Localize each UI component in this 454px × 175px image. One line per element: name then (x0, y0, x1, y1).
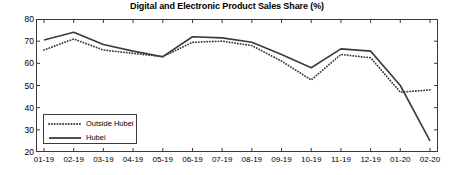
y-axis-tick-label: 70 (14, 36, 34, 46)
x-axis-tick-label: 12-19 (360, 155, 380, 164)
y-axis-tick-label: 40 (14, 103, 34, 113)
x-axis-tick-label: 01-19 (34, 155, 54, 164)
series-line-outside-hubei (44, 39, 430, 92)
x-axis-tick-label: 10-19 (301, 155, 321, 164)
x-axis-tick-label: 05-19 (153, 155, 173, 164)
y-axis-tick-label: 60 (14, 58, 34, 68)
y-axis-tick-label: 80 (14, 14, 34, 24)
legend-line-sample (48, 119, 82, 129)
chart-figure: Digital and Electronic Product Sales Sha… (0, 0, 454, 175)
chart-legend: Outside HubeiHubei (43, 114, 137, 144)
y-axis-tick-labels: 80706050403020 (10, 0, 34, 175)
y-axis-tick-label: 30 (14, 125, 34, 135)
legend-item-label: Hubei (86, 133, 106, 142)
legend-item-label: Outside Hubei (86, 119, 134, 128)
x-axis-tick-label: 09-19 (271, 155, 291, 164)
x-axis-tick-label: 11-19 (331, 155, 351, 164)
chart-title: Digital and Electronic Product Sales Sha… (0, 1, 454, 11)
x-axis-tick-label: 07-19 (212, 155, 232, 164)
x-axis-tick-labels: 01-1902-1903-1904-1905-1906-1907-1908-19… (0, 155, 454, 171)
legend-item: Hubei (44, 130, 138, 145)
x-axis-tick-label: 02-20 (420, 155, 440, 164)
legend-line-sample (48, 133, 82, 143)
y-axis-tick-label: 50 (14, 81, 34, 91)
x-axis-tick-label: 06-19 (182, 155, 202, 164)
x-axis-tick-label: 02-19 (63, 155, 83, 164)
x-axis-tick-label: 08-19 (242, 155, 262, 164)
legend-item: Outside Hubei (44, 116, 138, 131)
x-axis-tick-label: 01-20 (390, 155, 410, 164)
x-axis-tick-label: 04-19 (123, 155, 143, 164)
x-axis-tick-label: 03-19 (93, 155, 113, 164)
